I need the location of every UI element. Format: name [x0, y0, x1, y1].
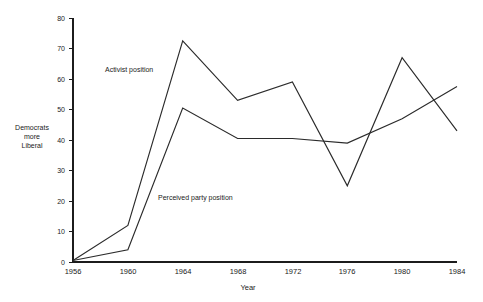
x-tick-label-1980: 1980: [394, 267, 411, 276]
series-line-perceived-party-position: [73, 87, 457, 261]
y-axis-group: 0 10 20 30 40 50 60 70 80: [57, 15, 73, 266]
x-tick-label-1984: 1984: [449, 267, 466, 276]
annotation-activist-position: Activist position: [105, 66, 153, 74]
y-axis-side-label-line-1: Democrats: [15, 124, 49, 131]
y-axis-side-label: Democrats more Liberal: [15, 124, 49, 149]
y-axis-ticks: [69, 18, 73, 262]
chart-container: 0 10 20 30 40 50 60 70 80 1956 1960 1964…: [0, 0, 483, 302]
y-axis-side-label-line-2: more: [24, 133, 40, 140]
annotation-perceived-party-position: Perceived party position: [158, 194, 233, 202]
x-tick-label-1960: 1960: [120, 267, 137, 276]
x-axis-title: Year: [240, 283, 256, 292]
y-axis-side-label-line-3: Liberal: [21, 142, 42, 149]
x-tick-label-1976: 1976: [339, 267, 356, 276]
y-tick-label-80: 80: [57, 15, 65, 22]
y-tick-label-60: 60: [57, 76, 65, 83]
x-tick-label-1956: 1956: [65, 267, 82, 276]
y-tick-label-30: 30: [57, 167, 65, 174]
series-group: [73, 41, 457, 261]
y-tick-label-50: 50: [57, 106, 65, 113]
y-tick-label-10: 10: [57, 228, 65, 235]
x-tick-label-1964: 1964: [175, 267, 192, 276]
x-tick-label-1968: 1968: [230, 267, 247, 276]
series-line-activist-position: [73, 41, 457, 261]
x-tick-label-1972: 1972: [285, 267, 302, 276]
y-tick-label-0: 0: [61, 259, 65, 266]
y-tick-label-20: 20: [57, 198, 65, 205]
y-tick-label-70: 70: [57, 45, 65, 52]
x-axis-group: 1956 1960 1964 1968 1972 1976 1980 1984 …: [65, 262, 466, 292]
y-tick-label-40: 40: [57, 137, 65, 144]
line-chart: 0 10 20 30 40 50 60 70 80 1956 1960 1964…: [0, 0, 483, 302]
